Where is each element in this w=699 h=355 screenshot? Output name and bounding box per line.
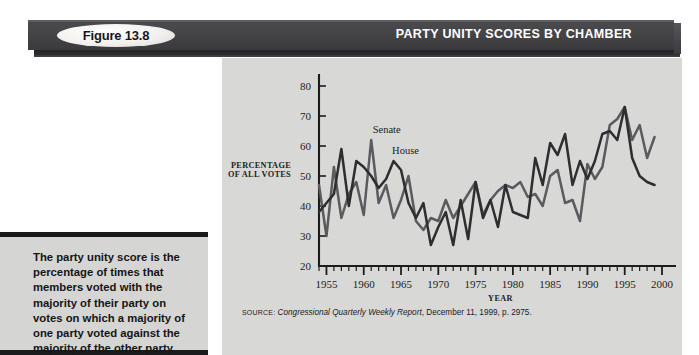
x-axis-title: YEAR <box>488 294 513 303</box>
y-axis-tick-label: 70 <box>300 110 312 122</box>
banner-bottom-bevel <box>34 50 680 57</box>
series-line-senate <box>319 107 655 236</box>
figure-number-badge: Figure 13.8 <box>57 24 175 47</box>
y-axis-tick-label: 60 <box>300 140 312 152</box>
y-axis-tick-label: 30 <box>300 230 312 242</box>
y-axis-tick-label: 20 <box>300 260 312 272</box>
series-annotation-house: House <box>392 145 419 156</box>
chart-panel: 2030405060708019551960196519701975198019… <box>222 58 682 355</box>
x-axis-tick-label: 1995 <box>614 278 637 290</box>
source-prefix-label: SOURCE: <box>242 309 275 316</box>
source-details: , December 11, 1999, p. 2975. <box>422 308 532 317</box>
banner-right-bevel <box>674 23 681 54</box>
caption-text: The party unity score is the percentage … <box>33 250 193 355</box>
caption-box: The party unity score is the percentage … <box>0 232 208 355</box>
x-axis-tick-label: 2000 <box>651 278 674 290</box>
x-axis-tick-label: 1965 <box>390 278 413 290</box>
y-axis-title-line1: PERCENTAGE <box>231 161 291 170</box>
banner-face: Figure 13.8 PARTY UNITY SCORES BY CHAMBE… <box>28 20 674 50</box>
x-axis-tick-label: 1975 <box>465 278 488 290</box>
x-axis-tick-label: 1985 <box>539 278 562 290</box>
y-axis-tick-label: 50 <box>300 170 312 182</box>
y-axis-title-line2: OF ALL VOTES <box>228 170 291 179</box>
x-axis-tick-label: 1970 <box>427 278 450 290</box>
line-chart: 2030405060708019551960196519701975198019… <box>222 58 682 308</box>
x-axis-tick-label: 1990 <box>576 278 599 290</box>
figure-header-banner: Figure 13.8 PARTY UNITY SCORES BY CHAMBE… <box>28 20 682 58</box>
source-publication-title: Congressional Quarterly Weekly Report <box>278 308 422 317</box>
x-axis-tick-label: 1980 <box>502 278 525 290</box>
source-citation: SOURCE: Congressional Quarterly Weekly R… <box>242 308 532 317</box>
series-annotation-senate: Senate <box>373 124 401 135</box>
figure-number-label: Figure 13.8 <box>83 28 149 43</box>
y-axis-tick-label: 40 <box>300 200 312 212</box>
y-axis-tick-label: 80 <box>300 80 312 92</box>
page-title: PARTY UNITY SCORES BY CHAMBER <box>396 27 632 41</box>
x-axis-tick-label: 1955 <box>315 278 338 290</box>
chart-figure: 2030405060708019551960196519701975198019… <box>222 58 682 308</box>
x-axis-tick-label: 1960 <box>353 278 376 290</box>
series-line-house <box>319 107 655 245</box>
banner-top-edge <box>28 20 674 22</box>
